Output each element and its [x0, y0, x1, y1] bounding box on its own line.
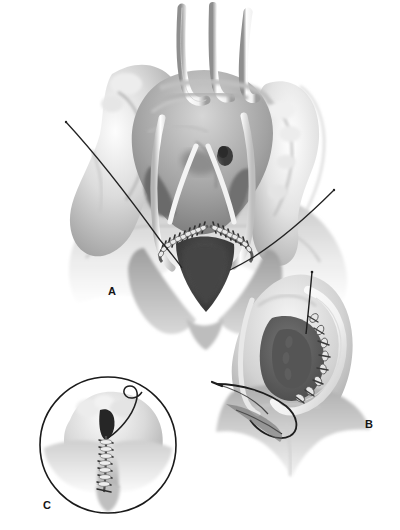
panel-c-artwork — [0, 0, 400, 530]
surgical-figure: A B C — [0, 0, 400, 530]
panel-label-b: B — [365, 418, 373, 430]
panel-label-a: A — [108, 285, 116, 297]
panel-c-content — [36, 373, 180, 517]
panel-label-c: C — [43, 499, 51, 511]
